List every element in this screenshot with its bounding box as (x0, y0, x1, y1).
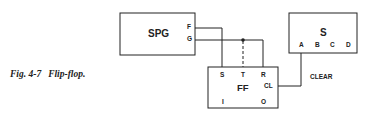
s-pin-b: B (315, 42, 320, 49)
ff-pin-s: S (220, 72, 224, 79)
ff-pin-t: T (241, 72, 245, 79)
ff-pin-cl: CL (264, 83, 273, 90)
figure-title: Flip-flop. (48, 69, 85, 79)
ff-label: FF (237, 83, 249, 93)
wire-g-to-r (195, 40, 263, 67)
s-pin-d: D (346, 42, 351, 49)
ff-pin-o: O (261, 99, 266, 106)
s-pin-c: C (330, 42, 335, 49)
flip-flop-diagram (0, 0, 367, 115)
spg-label: SPG (148, 29, 169, 39)
wire-clear (278, 53, 301, 86)
clear-label: CLEAR (310, 74, 332, 81)
spg-pin-f: F (187, 24, 191, 31)
ff-pin-r: R (261, 72, 266, 79)
s-label: S (320, 28, 327, 38)
wire-f-to-s (195, 28, 222, 67)
ff-pin-i: I (222, 99, 224, 106)
s-pin-a: A (299, 42, 304, 49)
figure-caption: Fig. 4-7Flip-flop. (10, 69, 85, 79)
spg-pin-g: G (187, 36, 192, 43)
figure-number: Fig. 4-7 (10, 69, 41, 79)
